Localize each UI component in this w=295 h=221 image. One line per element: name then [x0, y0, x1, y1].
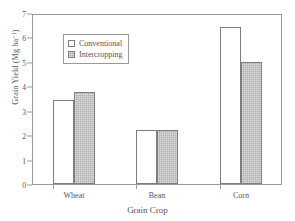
x-tick-label-bean: Bean — [127, 191, 187, 200]
bar-chart-figure: Grain Yield (Mg ha⁻¹) 0 1 2 3 4 5 6 7 — [0, 0, 295, 221]
bar-wheat-conventional — [53, 100, 74, 184]
y-tick-label-6: 6 — [2, 34, 26, 43]
x-tick-label-corn: Corn — [211, 191, 271, 200]
y-tick-label-4: 4 — [2, 83, 26, 92]
bar-bean-intercropping — [157, 130, 178, 184]
x-axis-title: Grain Crop — [0, 205, 295, 215]
y-tick-label-2: 2 — [2, 132, 26, 141]
bar-bean-conventional — [136, 130, 157, 184]
legend-entry-conventional: Conventional — [68, 38, 123, 49]
legend-label-intercropping: Intercropping — [79, 50, 123, 59]
x-tick-mark-wheat — [53, 185, 54, 189]
bar-corn-conventional — [220, 27, 241, 184]
y-tick-label-5: 5 — [2, 58, 26, 67]
chart-legend: Conventional Intercropping — [63, 34, 129, 64]
plot-area: Conventional Intercropping — [32, 14, 282, 185]
open-square-swatch-icon — [68, 40, 75, 47]
x-tick-label-wheat: Wheat — [44, 191, 104, 200]
y-axis-ticks: 0 1 2 3 4 5 6 7 — [0, 14, 32, 185]
filled-square-swatch-icon — [68, 51, 75, 58]
bar-wheat-intercropping — [74, 92, 95, 184]
y-tick-label-3: 3 — [2, 107, 26, 116]
y-tick-label-1: 1 — [2, 156, 26, 165]
legend-entry-intercropping: Intercropping — [68, 49, 123, 60]
x-tick-mark-corn — [220, 185, 221, 189]
y-tick-label-0: 0 — [2, 181, 26, 190]
legend-label-conventional: Conventional — [79, 39, 122, 48]
y-tick-label-7: 7 — [2, 10, 26, 19]
bar-corn-intercropping — [241, 62, 262, 184]
x-tick-mark-bean — [136, 185, 137, 189]
